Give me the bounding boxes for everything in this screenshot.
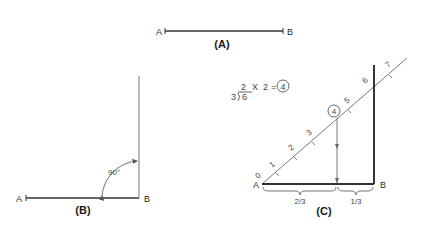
- transfer-arrow-end-icon: [335, 178, 339, 183]
- dividend: 6: [242, 92, 247, 102]
- scale-tick-5: [348, 110, 351, 113]
- division-equation: 3 6 2 X 2 = 4: [231, 80, 289, 102]
- scale-label-2: 2: [287, 142, 297, 152]
- scale-label-6: 6: [361, 75, 371, 85]
- scale-label-5: 5: [343, 95, 353, 105]
- figure-b-caption: (B): [75, 204, 91, 216]
- scale-tick-2: [294, 157, 297, 160]
- transfer-arrow-mid-icon: [335, 144, 339, 149]
- figure-b-point-a-label: A: [16, 194, 22, 204]
- figure-a-point-b-label: B: [287, 27, 293, 37]
- diagonal-scale-line: [262, 58, 407, 184]
- divisor: 3: [231, 92, 236, 102]
- scale-label-4: 4: [332, 107, 337, 116]
- geometry-diagram: A B (A) A 90° B (B) 3 6 2 X 2 = 4: [0, 0, 421, 233]
- figure-a-caption: (A): [214, 38, 230, 50]
- figure-c-point-a-label: A: [253, 180, 259, 190]
- times-sign: X: [252, 82, 258, 92]
- right-angle-arc: [102, 161, 137, 196]
- scale-tick-7: [389, 75, 392, 78]
- result: 4: [280, 82, 285, 92]
- scale-tick-3: [312, 142, 315, 145]
- scale-label-7: 7: [384, 59, 394, 69]
- figure-b: A 90° B (B): [16, 76, 150, 216]
- figure-a: A B (A): [156, 27, 293, 50]
- multiplier: 2: [263, 82, 268, 92]
- equals-sign: =: [271, 82, 276, 92]
- brace-left: [263, 187, 336, 195]
- scale-label-1: 1: [268, 159, 278, 169]
- quotient: 2: [241, 82, 246, 92]
- figure-c-caption: (C): [316, 205, 332, 217]
- angle-label: 90°: [108, 168, 120, 177]
- division-bracket: [238, 93, 240, 101]
- scale-tick-1: [276, 173, 279, 176]
- segment-left-label: 2/3: [294, 197, 306, 206]
- figure-b-point-b-label: B: [144, 194, 150, 204]
- scale-label-3: 3: [305, 127, 315, 137]
- brace-right: [338, 187, 373, 195]
- segment-right-label: 1/3: [350, 197, 362, 206]
- figure-c-point-b-label: B: [380, 180, 386, 190]
- figure-a-point-a-label: A: [156, 27, 162, 37]
